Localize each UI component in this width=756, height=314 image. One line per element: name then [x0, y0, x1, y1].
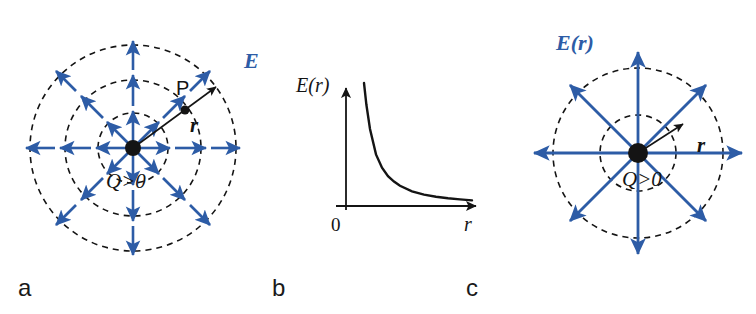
panel-c-diagram: Q>0 r E(r)	[0, 0, 756, 314]
field-label-c: E(r)	[555, 30, 594, 55]
electric-field-figure: Q>0 P r E E(r) 0 r	[0, 0, 756, 314]
radius-label-c: r	[697, 133, 706, 157]
panel-label-a: a	[18, 276, 31, 300]
panel-label-b: b	[272, 276, 285, 300]
field-arrow-c-135	[570, 85, 633, 148]
point-charge-c	[628, 143, 648, 163]
panel-label-c: c	[466, 276, 478, 300]
charge-label-c: Q>0	[622, 167, 662, 191]
